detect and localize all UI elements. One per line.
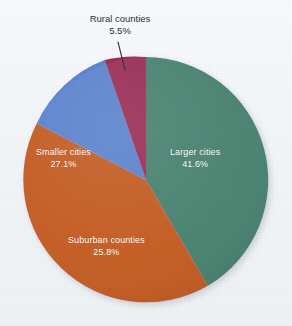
pie-label-smaller-cities: Smaller cities 27.1% [36, 147, 91, 170]
pie-label-smaller-cities-name: Smaller cities [36, 147, 91, 157]
pie-label-suburban-counties-name: Suburban counties [68, 235, 145, 245]
pie-sheen-overlay [23, 57, 269, 303]
pie-label-rural-counties-percent: 5.5% [70, 25, 170, 37]
pie-label-larger-cities: Larger cities 41.6% [170, 147, 220, 170]
pie-label-rural-counties-name: Rural counties [90, 13, 151, 24]
pie-label-larger-cities-name: Larger cities [170, 147, 220, 157]
pie-label-rural-counties: Rural counties 5.5% [70, 13, 170, 37]
pie-label-larger-cities-percent: 41.6% [170, 159, 220, 171]
pie-label-smaller-cities-percent: 27.1% [36, 159, 91, 171]
pie-label-suburban-counties: Suburban counties 25.8% [68, 235, 145, 258]
pie-chart-figure: Larger cities 41.6% Smaller cities 27.1%… [0, 0, 292, 326]
pie-label-suburban-counties-percent: 25.8% [68, 247, 145, 259]
